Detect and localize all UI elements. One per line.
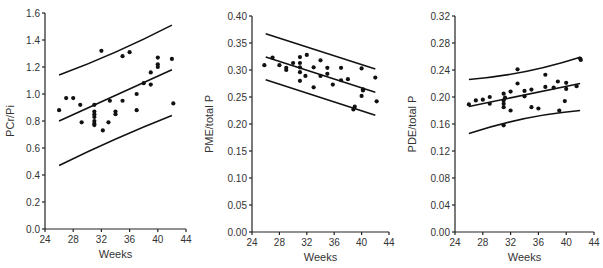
data-point [291, 61, 295, 65]
y-tick-label: 0.20 [431, 92, 451, 103]
data-point [515, 67, 519, 71]
data-point [575, 84, 579, 88]
data-point [503, 96, 507, 100]
x-tick-label: 36 [533, 237, 545, 248]
x-tick-label: 24 [449, 237, 461, 248]
y-tick-label: 0.30 [228, 65, 248, 76]
y-tick-label: 0.08 [431, 173, 451, 184]
data-point [579, 58, 583, 62]
y-tick-label: 0.24 [431, 65, 451, 76]
data-point [57, 108, 61, 112]
y-tick-label: 0.2 [26, 197, 40, 208]
y-tick-label: 0.28 [431, 38, 451, 49]
chart-panel-2: 0.000.050.100.150.200.250.300.350.402428… [203, 11, 395, 264]
y-axis-title: PME/total P [203, 95, 215, 153]
x-tick-label: 44 [180, 234, 192, 245]
data-point [270, 55, 274, 59]
data-point [481, 98, 485, 102]
data-point [298, 70, 302, 74]
fit-line-upper [469, 57, 580, 79]
data-point [536, 106, 540, 110]
x-tick-label: 24 [246, 237, 258, 248]
x-axis-title: Weeks [304, 251, 338, 263]
y-axis-title: PCr/Pi [4, 105, 16, 137]
x-tick-label: 40 [152, 234, 164, 245]
y-tick-label: 0.25 [228, 92, 248, 103]
data-point [351, 107, 355, 111]
y-tick-label: 0.40 [228, 11, 248, 22]
fit-line-upper [59, 25, 172, 75]
data-point [502, 92, 506, 96]
y-tick-label: 0.10 [228, 173, 248, 184]
data-point [522, 94, 526, 98]
x-tick-label: 44 [588, 237, 600, 248]
data-point [298, 65, 302, 69]
y-tick-label: 0.15 [228, 146, 248, 157]
data-point [312, 65, 316, 69]
data-point [563, 99, 567, 103]
x-tick-label: 36 [329, 237, 341, 248]
x-tick-label: 40 [356, 237, 368, 248]
data-point [312, 85, 316, 89]
data-point [556, 79, 560, 83]
x-tick-label: 32 [301, 237, 313, 248]
y-tick-label: 0.04 [431, 200, 451, 211]
data-point [325, 66, 329, 70]
y-tick-label: 0.12 [431, 146, 451, 157]
fit-line-upper [266, 34, 376, 69]
y-tick-label: 1.4 [26, 35, 40, 46]
data-point [557, 108, 561, 112]
data-point [171, 101, 175, 105]
data-point [156, 65, 160, 69]
data-point [360, 66, 364, 70]
data-point [298, 79, 302, 83]
chart-panel-1: 0.00.20.40.60.81.01.21.41.6242832364044W… [4, 8, 192, 261]
y-tick-label: 0.05 [228, 200, 248, 211]
data-point [142, 81, 146, 85]
data-point [92, 103, 96, 107]
data-point [149, 82, 153, 86]
y-tick-label: 0.20 [228, 119, 248, 130]
data-point [99, 49, 103, 53]
data-point [552, 85, 556, 89]
fit-line-lower [59, 116, 172, 166]
data-point [339, 66, 343, 70]
y-tick-label: 0.00 [228, 227, 248, 238]
y-tick-label: 1.2 [26, 62, 40, 73]
x-tick-label: 40 [561, 237, 573, 248]
data-point [149, 70, 153, 74]
data-point [101, 128, 105, 132]
data-point [92, 115, 96, 119]
fit-line-lower [469, 111, 580, 134]
y-tick-label: 0.35 [228, 38, 248, 49]
data-point [529, 105, 533, 109]
data-point [543, 73, 547, 77]
data-point [488, 102, 492, 106]
data-point [515, 81, 519, 85]
data-point [135, 92, 139, 96]
x-tick-label: 24 [39, 234, 51, 245]
data-point [339, 78, 343, 82]
data-point [170, 57, 174, 61]
data-point [106, 120, 110, 124]
data-point [80, 120, 84, 124]
y-tick-label: 0.32 [431, 11, 451, 22]
data-point [113, 112, 117, 116]
data-point [564, 81, 568, 85]
y-tick-label: 0.00 [431, 227, 451, 238]
x-tick-label: 32 [505, 237, 517, 248]
data-point [120, 54, 124, 58]
data-point [467, 102, 471, 106]
data-point [564, 87, 568, 91]
data-point [502, 105, 506, 109]
data-point [128, 50, 132, 54]
data-point [522, 89, 526, 93]
data-point [488, 95, 492, 99]
data-point [298, 55, 302, 59]
data-point [262, 63, 266, 67]
y-tick-label: 0.16 [431, 119, 451, 130]
data-point [71, 96, 75, 100]
data-point [509, 90, 513, 94]
data-point [509, 108, 513, 112]
chart-figure: 0.00.20.40.60.81.01.21.41.6242832364044W… [0, 0, 603, 268]
